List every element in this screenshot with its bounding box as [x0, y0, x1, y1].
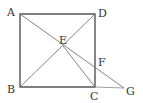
segment-bd: [20, 14, 95, 87]
label-a: A: [6, 6, 16, 19]
label-d: D: [98, 7, 107, 20]
label-f: F: [98, 56, 106, 69]
segment-cg: [95, 87, 124, 88]
geometry-diagram: A B C D E F G: [0, 0, 143, 103]
label-b: B: [7, 83, 15, 96]
segment-ec: [63, 46, 95, 87]
label-e: E: [59, 34, 67, 47]
segment-ag: [20, 14, 124, 88]
label-c: C: [90, 90, 98, 103]
label-g: G: [126, 85, 135, 98]
